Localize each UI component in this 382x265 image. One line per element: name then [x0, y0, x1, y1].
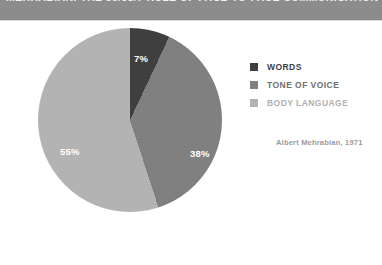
legend-label: BODY LANGUAGE: [267, 98, 348, 108]
footer-spacer: [0, 246, 382, 265]
legend-item-body-language: BODY LANGUAGE: [250, 94, 378, 111]
chart-screenshot: MEHRABIAN: THE 55/38/7 RULE OF FACE-TO-F…: [0, 0, 382, 265]
page-title: MEHRABIAN: THE 55/38/7 RULE OF FACE-TO-F…: [6, 0, 379, 4]
legend-item-tone-of-voice: TONE OF VOICE: [250, 76, 378, 93]
pie-slice-label-tone-of-voice: 38%: [190, 148, 210, 159]
legend-label: WORDS: [267, 62, 302, 72]
pie-slice-label-body-language: 55%: [60, 146, 80, 157]
title-banner: MEHRABIAN: THE 55/38/7 RULE OF FACE-TO-F…: [0, 0, 382, 20]
legend-swatch-icon: [250, 63, 258, 71]
legend-item-words: WORDS: [250, 58, 378, 75]
pie-slice-label-words: 7%: [134, 53, 148, 64]
source-attribution: Albert Mehrabian, 1971: [276, 138, 363, 147]
legend-label: TONE OF VOICE: [267, 80, 339, 90]
legend-swatch-icon: [250, 81, 258, 89]
legend-swatch-icon: [250, 99, 258, 107]
pie-chart: 7% 38% 55%: [38, 28, 222, 212]
pie-disc: [38, 28, 222, 212]
banner-divider: [0, 20, 382, 21]
chart-legend: WORDS TONE OF VOICE BODY LANGUAGE: [250, 58, 378, 112]
